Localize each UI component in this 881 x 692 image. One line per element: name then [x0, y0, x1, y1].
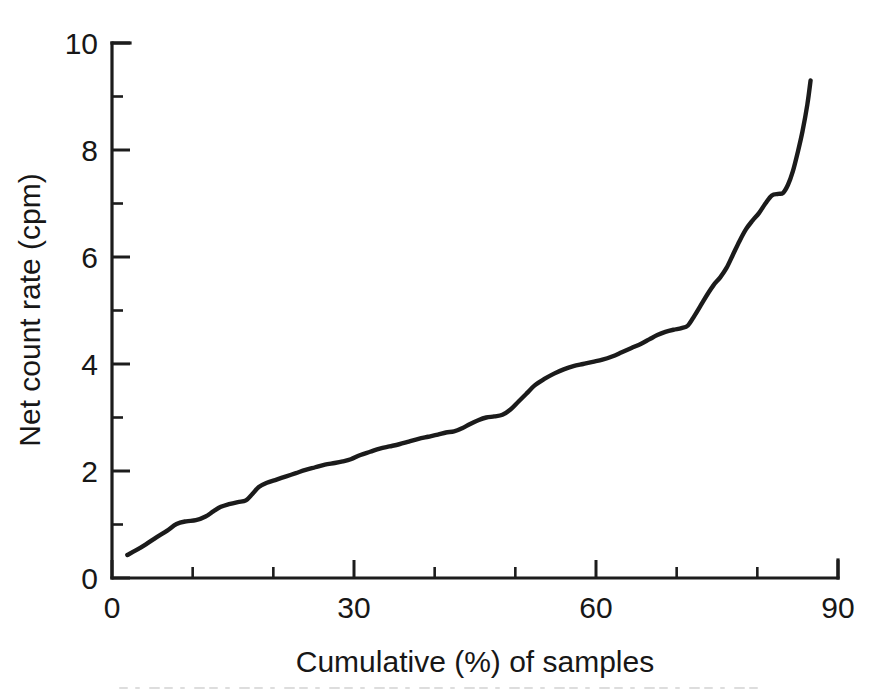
y-axis-title: Net count rate (cpm) — [13, 173, 46, 446]
figure-container: 0246810 0306090 Cumulative (%) of sample… — [0, 0, 881, 692]
y-tick-label: 6 — [81, 241, 98, 274]
x-tick-label: 60 — [579, 591, 612, 624]
y-tick-label: 10 — [65, 27, 98, 60]
y-tick-label: 8 — [81, 134, 98, 167]
x-tick-label: 30 — [337, 591, 370, 624]
x-tick-label: 90 — [821, 591, 854, 624]
y-axis-tick-labels: 0246810 — [65, 27, 98, 595]
y-tick-label: 0 — [81, 562, 98, 595]
axes-group — [112, 43, 838, 578]
y-tick-label: 4 — [81, 348, 98, 381]
data-series-group — [127, 80, 810, 555]
y-axis-ticks — [112, 43, 130, 578]
series-line-net-count-rate — [127, 80, 810, 555]
cumulative-net-count-rate-chart: 0246810 0306090 Cumulative (%) of sample… — [0, 0, 881, 692]
x-axis-title: Cumulative (%) of samples — [296, 645, 654, 678]
x-axis-ticks — [112, 560, 838, 578]
y-tick-label: 2 — [81, 455, 98, 488]
x-axis-tick-labels: 0306090 — [104, 591, 855, 624]
x-tick-label: 0 — [104, 591, 121, 624]
